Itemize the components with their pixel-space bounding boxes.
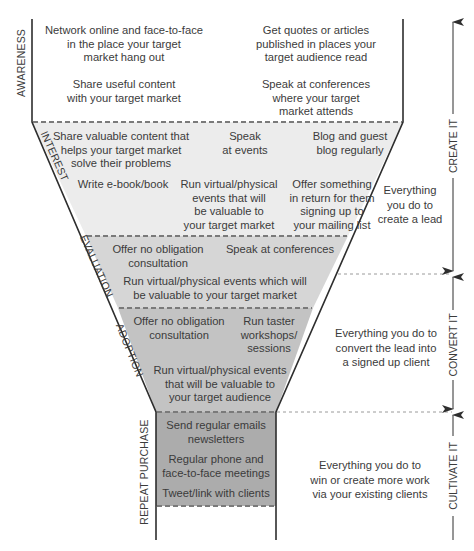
adoption-item: Run taster workshops/ sessions (234, 315, 304, 356)
awareness-item: Network online and face-to-face in the p… (40, 24, 208, 65)
text-line: you do to (372, 198, 448, 213)
text-line: be valuable to (170, 205, 288, 219)
stage-label-repeat-purchase: REPEAT PURCHASE (138, 417, 150, 527)
phase-label-cultivate: CULTIVATE IT (445, 436, 461, 516)
text-line: be valuable to your target market (110, 289, 320, 303)
text-line: Run virtual/physical events (145, 364, 295, 378)
text-line: market hang out (40, 51, 208, 65)
text-line: consultation (103, 257, 213, 271)
interest-item: Write e-book/book (68, 178, 178, 192)
text-line: Everything you do to (326, 326, 446, 341)
text-line: that will be valuable to (145, 378, 295, 392)
text-line: Share valuable content that (46, 130, 196, 144)
text-line: Offer no obligation (103, 243, 213, 257)
text-line: sessions (234, 342, 304, 356)
text-line: Run virtual/physical (170, 178, 288, 192)
phase-label-create: CREATE IT (445, 114, 461, 178)
text-line: Offer no obligation (124, 315, 234, 329)
text-line: Speak at conferences (220, 243, 340, 257)
text-line: events that will (170, 192, 288, 206)
text-line: helps your target market (46, 144, 196, 158)
evaluation-item: Speak at conferences (220, 243, 340, 257)
text-line: where your target (240, 92, 392, 106)
text-line: create a lead (372, 212, 448, 227)
repeat-purchase-item: Regular phone and face-to-face meetings (156, 453, 276, 480)
text-line: workshops/ (234, 329, 304, 343)
text-line: Everything you do to (300, 458, 440, 473)
text-line: Run virtual/physical events which will (110, 275, 320, 289)
text-line: a signed up client (326, 355, 446, 370)
text-line: Run taster (234, 315, 304, 329)
awareness-item: Get quotes or articles published in plac… (240, 24, 392, 65)
text-line: at events (205, 144, 285, 158)
repeat-purchase-item: Tweet/link with clients (156, 487, 276, 501)
text-line: Blog and guest (300, 130, 400, 144)
text-line: consultation (124, 329, 234, 343)
text-line: Speak at conferences (240, 78, 392, 92)
evaluation-item: Offer no obligation consultation (103, 243, 213, 270)
text-line: Regular phone and (156, 453, 276, 467)
interest-item: Blog and guest blog regularly (300, 130, 400, 157)
interest-item: Share valuable content that helps your t… (46, 130, 196, 171)
text-line: in the place your target (40, 38, 208, 52)
adoption-item: Run virtual/physical events that will be… (145, 364, 295, 405)
text-line: convert the lead into (326, 341, 446, 356)
text-line: face-to-face meetings (156, 467, 276, 481)
text-line: solve their problems (46, 157, 196, 171)
text-line: Speak (205, 130, 285, 144)
text-line: Write e-book/book (68, 178, 178, 192)
awareness-item: Speak at conferences where your target m… (240, 78, 392, 119)
repeat-purchase-item: Send regular emails newsletters (156, 419, 276, 446)
text-line: Everything (372, 183, 448, 198)
interest-item: Run virtual/physical events that will be… (170, 178, 288, 232)
text-line: win or create more work (300, 473, 440, 488)
text-line: blog regularly (300, 144, 400, 158)
text-line: published in places your (240, 38, 392, 52)
stage-label-awareness: AWARENESS (15, 28, 27, 98)
text-line: with your target market (50, 92, 198, 106)
evaluation-item: Run virtual/physical events which will b… (110, 275, 320, 302)
phase-label-convert: CONVERT IT (445, 310, 461, 380)
text-line: Network online and face-to-face (40, 24, 208, 38)
text-line: target audience read (240, 51, 392, 65)
text-line: market attends (240, 105, 392, 119)
text-line: newsletters (156, 433, 276, 447)
text-line: Send regular emails (156, 419, 276, 433)
cultivate-description: Everything you do to win or create more … (300, 458, 440, 502)
text-line: Get quotes or articles (240, 24, 392, 38)
text-line: Share useful content (50, 78, 198, 92)
text-line: via your existing clients (300, 487, 440, 502)
awareness-item: Share useful content with your target ma… (50, 78, 198, 105)
adoption-item: Offer no obligation consultation (124, 315, 234, 342)
text-line: your target audience (145, 391, 295, 405)
text-line: Tweet/link with clients (156, 487, 276, 501)
convert-description: Everything you do to convert the lead in… (326, 326, 446, 370)
interest-item: Speak at events (205, 130, 285, 157)
text-line: your target market (170, 219, 288, 233)
create-description: Everything you do to create a lead (372, 183, 448, 227)
